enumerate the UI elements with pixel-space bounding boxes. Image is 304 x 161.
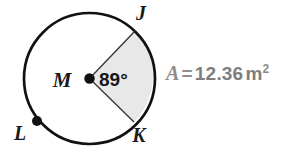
area-variable: A xyxy=(166,62,180,84)
label-k: K xyxy=(131,124,147,146)
label-j: J xyxy=(135,2,147,24)
area-unit-exponent: 2 xyxy=(263,62,270,76)
label-l: L xyxy=(13,122,26,144)
area-formula: A=12.36m2 xyxy=(166,63,269,83)
angle-measure-label: 89° xyxy=(99,69,128,90)
area-unit-base: m xyxy=(243,63,262,84)
geometry-figure: M J K L 89° A=12.36m2 xyxy=(0,0,304,161)
label-m: M xyxy=(52,68,73,92)
equals-sign: = xyxy=(180,63,195,84)
area-value: 12.36 xyxy=(195,63,244,84)
point-dot-l xyxy=(32,116,42,126)
center-point-dot-m xyxy=(84,73,94,83)
